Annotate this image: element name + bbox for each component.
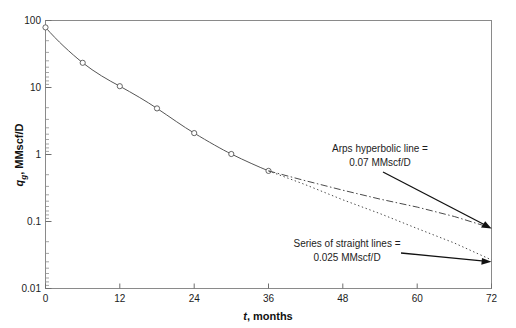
chart-canvas: 100 10 1 0.1 0.01 0 12 24 36 48 60 72 (0, 0, 516, 328)
straight-lines-annotation-line1: Series of straight lines = (294, 238, 401, 249)
y-tick-label-0.1: 0.1 (27, 216, 41, 227)
svg-text:t, months: t, months (243, 310, 293, 322)
straight-lines-annotation-line2: 0.025 MMscf/D (313, 252, 380, 263)
y-tick-label-100: 100 (24, 15, 41, 26)
arps-annotation-line1: Arps hyperbolic line = (332, 143, 428, 154)
x-tick-label-60: 60 (412, 293, 424, 304)
data-point-marker (229, 151, 234, 156)
x-tick-label-0: 0 (43, 293, 49, 304)
chart-background (0, 0, 516, 328)
x-axis-title-rest: , months (247, 310, 293, 322)
y-tick-label-10: 10 (30, 82, 42, 93)
data-point-marker (154, 106, 159, 111)
x-axis-title: t, months (243, 310, 293, 322)
arps-annotation-line2: 0.07 MMscf/D (349, 157, 411, 168)
x-tick-label-24: 24 (189, 293, 201, 304)
y-tick-label-1: 1 (35, 149, 41, 160)
x-tick-label-72: 72 (486, 293, 498, 304)
x-tick-label-12: 12 (114, 293, 126, 304)
data-point-marker (192, 131, 197, 136)
data-point-marker (43, 25, 48, 30)
data-point-marker (80, 60, 85, 65)
data-point-marker (117, 84, 122, 89)
decline-curve-chart: 100 10 1 0.1 0.01 0 12 24 36 48 60 72 (0, 0, 516, 328)
x-tick-label-36: 36 (263, 293, 275, 304)
y-axis-title-rest: , MMscf/D (13, 123, 25, 174)
y-tick-label-0.01: 0.01 (22, 283, 42, 294)
x-tick-label-48: 48 (337, 293, 349, 304)
